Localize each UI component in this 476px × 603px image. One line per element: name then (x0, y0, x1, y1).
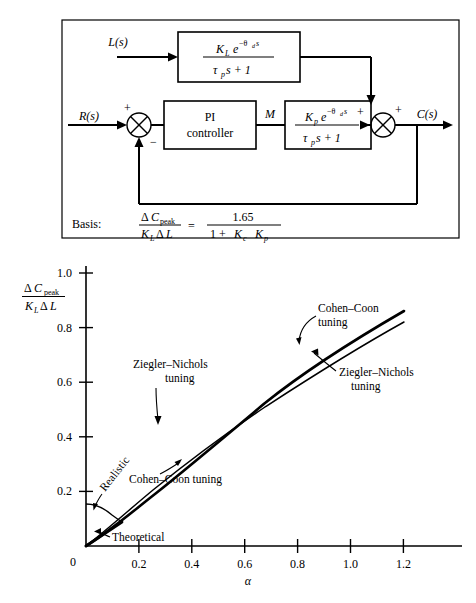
output-junction-sign-left: + (357, 105, 364, 119)
curve-cohen-coon (86, 311, 404, 546)
basis-rhs-numerator: 1.65 (233, 210, 254, 224)
curve-realistic (86, 504, 122, 522)
svg-text:K: K (215, 42, 225, 56)
svg-text:p: p (220, 70, 225, 79)
pi-controller-label-line1: PI (205, 110, 216, 124)
error-junction (127, 113, 151, 137)
load-input-arrow (117, 53, 178, 62)
pi-controller-block (164, 101, 256, 149)
annotation-theoretical: Theoretical (112, 531, 164, 543)
svg-text:Δ: Δ (24, 281, 32, 295)
y-tick-label-0.2: 0.2 (57, 484, 72, 498)
svg-text:L: L (165, 227, 173, 241)
load-input-label: L(s) (107, 35, 127, 49)
svg-text:s + 1: s + 1 (226, 63, 251, 77)
svg-text:K: K (233, 227, 243, 241)
leader-arrow-realistic (93, 503, 98, 511)
origin-label: 0 (70, 555, 76, 569)
svg-text:peak: peak (44, 288, 59, 297)
svg-text:p: p (263, 234, 268, 243)
process-denominator: τ p s + 1 (303, 131, 341, 147)
x-tick-label-0.8: 0.8 (290, 557, 305, 571)
svg-text:K: K (24, 299, 34, 313)
process-numerator: K p e −θ d s (304, 107, 347, 126)
svg-text:τ: τ (213, 63, 218, 77)
svg-text:−θ: −θ (327, 107, 336, 116)
x-axis-label: α (245, 574, 252, 588)
diagram-border (62, 20, 459, 238)
svg-text:C: C (34, 281, 43, 295)
svg-text:−θ: −θ (239, 39, 248, 48)
leader-arrow-ziegler-nichols-right (311, 349, 319, 356)
svg-text:C: C (151, 210, 160, 224)
annotation-realistic: Realistic (97, 454, 131, 493)
output-junction (371, 113, 395, 137)
annotation-ziegler-nichols-right-line1: Ziegler–Nichols (339, 366, 414, 379)
output-junction-sign-top: + (395, 103, 402, 117)
svg-text:Δ: Δ (141, 210, 149, 224)
leader-arrow-theoretical (94, 528, 101, 535)
annotation-ziegler-nichols-right-line2: tuning (351, 380, 381, 393)
annotation-cohen-coon-upper-line1: Cohen–Coon (318, 302, 379, 314)
annotation-ziegler-nichols-left-line1: Ziegler–Nichols (133, 358, 208, 371)
pi-controller-label-line2: controller (187, 126, 234, 140)
svg-text:1 +: 1 + (210, 227, 226, 241)
x-tick-label-0.2: 0.2 (131, 557, 146, 571)
y-tick-label-0.6: 0.6 (57, 375, 72, 389)
y-axis-label: Δ C peak K L Δ L (22, 281, 65, 315)
process-output-to-summer (360, 121, 371, 130)
output-arrow (395, 121, 453, 130)
error-junction-sign-minus: − (150, 135, 157, 149)
leader-ziegler-nichols-left (156, 388, 158, 420)
svg-text:K: K (304, 110, 314, 124)
svg-text:s: s (256, 39, 259, 48)
svg-text:K: K (140, 227, 150, 241)
figure-svg: L(s) K L e −θ d s τ p s + 1 R(s) (0, 0, 476, 603)
x-tick-label-0.4: 0.4 (184, 557, 199, 571)
y-tick-label-1.0: 1.0 (57, 266, 72, 280)
basis-label: Basis: (72, 217, 101, 231)
svg-text:c: c (243, 234, 247, 243)
svg-text:p: p (310, 138, 315, 147)
setpoint-label: R(s) (78, 109, 99, 123)
error-junction-sign-plus: + (124, 101, 131, 115)
svg-text:L: L (33, 306, 39, 315)
feedback-path (135, 125, 418, 204)
disturbance-denominator: τ p s + 1 (213, 63, 251, 79)
x-tick-label-0.6: 0.6 (237, 557, 252, 571)
svg-text:τ: τ (303, 131, 308, 145)
leader-arrow-cohen-coon-upper (296, 337, 302, 345)
svg-text:L: L (49, 299, 57, 313)
basis-lhs-numerator: Δ C peak (141, 210, 175, 226)
x-tick-label-1.0: 1.0 (343, 557, 358, 571)
leader-arrow-ziegler-nichols-left (155, 416, 162, 425)
x-tick-label-1.2: 1.2 (396, 557, 411, 571)
annotation-cohen-coon-lower: Cohen–Coon tuning (129, 473, 222, 486)
figure-page: L(s) K L e −θ d s τ p s + 1 R(s) (0, 0, 476, 603)
annotation-cohen-coon-upper-line2: tuning (318, 316, 348, 329)
svg-text:Δ: Δ (156, 227, 164, 241)
svg-text:K: K (254, 227, 264, 241)
svg-text:s + 1: s + 1 (316, 131, 341, 145)
output-label: C(s) (417, 107, 438, 121)
basis-rhs-denominator: 1 + K c K p (210, 227, 268, 243)
manipulated-variable-label: M (264, 107, 276, 121)
basis-equals: = (188, 219, 195, 233)
load-to-output-path (300, 57, 376, 105)
disturbance-numerator: K L e −θ d s (215, 39, 259, 58)
annotation-ziegler-nichols-left-line2: tuning (165, 372, 195, 385)
svg-text:s: s (344, 107, 347, 116)
y-tick-label-0.4: 0.4 (57, 430, 72, 444)
leader-cohen-coon-upper (299, 316, 316, 341)
basis-lhs-denominator: K L Δ L (140, 227, 173, 243)
svg-text:L: L (149, 234, 155, 243)
y-tick-label-0.8: 0.8 (57, 321, 72, 335)
svg-text:Δ: Δ (40, 299, 48, 313)
